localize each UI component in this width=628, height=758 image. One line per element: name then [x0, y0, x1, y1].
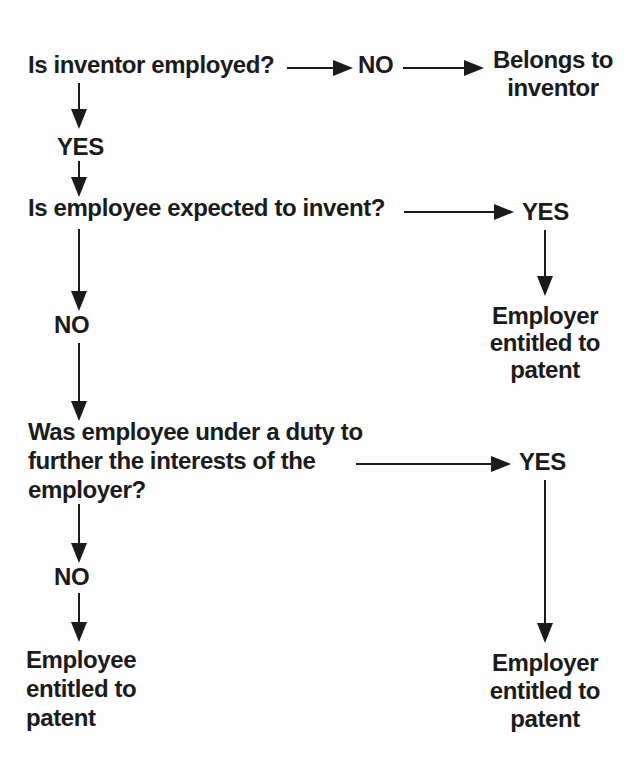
arrow-down-yes-to-employer-top [536, 230, 554, 296]
label-yes-q1: YES [57, 133, 104, 161]
arrow-down-yes-to-q2 [70, 161, 88, 197]
label-no-q3: NO [54, 563, 89, 591]
outcome-employer-bottom-line3: patent [485, 705, 605, 733]
outcome-employer-bottom-line2: entitled to [485, 677, 605, 705]
question-is-inventor-employed: Is inventor employed? [28, 51, 274, 79]
question-is-employee-expected-to-invent: Is employee expected to invent? [28, 194, 385, 222]
outcome-employer-entitled-bottom: Employer entitled to patent [485, 649, 605, 733]
arrow-down-q1-to-yes [70, 83, 88, 129]
arrow-down-no-to-employee-outcome [70, 593, 88, 642]
outcome-employee-entitled: Employee entitled to patent [26, 645, 136, 732]
arrow-right-q1-to-no [287, 59, 353, 77]
question-duty-line3: employer? [28, 475, 408, 504]
question-was-employee-under-duty: Was employee under a duty to further the… [28, 417, 408, 504]
outcome-employer-top-line3: patent [485, 356, 605, 383]
question-duty-line2: further the interests of the [28, 446, 408, 475]
label-no-q2: NO [54, 311, 89, 339]
outcome-belongs-to-inventor: Belongs to inventor [483, 46, 623, 102]
flowchart-canvas: Is inventor employed? NO Belongs to inve… [0, 0, 628, 758]
outcome-employee-line3: patent [26, 703, 136, 732]
label-no-q1: NO [358, 51, 393, 79]
outcome-employer-bottom-line1: Employer [485, 649, 605, 677]
label-yes-q2: YES [522, 198, 569, 226]
outcome-employer-top-line2: entitled to [485, 329, 605, 356]
label-yes-q3: YES [519, 448, 566, 476]
arrow-down-yes-to-employer-bottom [536, 480, 554, 643]
outcome-employee-line2: entitled to [26, 674, 136, 703]
outcome-employer-entitled-top: Employer entitled to patent [485, 302, 605, 383]
arrow-right-no-to-belongs-to-inventor [403, 59, 484, 77]
outcome-belongs-to-inventor-line2: inventor [483, 74, 623, 102]
question-duty-line1: Was employee under a duty to [28, 417, 408, 446]
outcome-employer-top-line1: Employer [485, 302, 605, 329]
arrow-down-no-to-q3 [70, 343, 88, 421]
arrow-down-q2-to-no [70, 229, 88, 311]
outcome-employee-line1: Employee [26, 645, 136, 674]
arrow-right-q2-to-yes [404, 203, 514, 221]
outcome-belongs-to-inventor-line1: Belongs to [483, 46, 623, 74]
arrow-right-q3-to-yes [356, 455, 511, 473]
arrow-down-q3-to-no [70, 504, 88, 563]
